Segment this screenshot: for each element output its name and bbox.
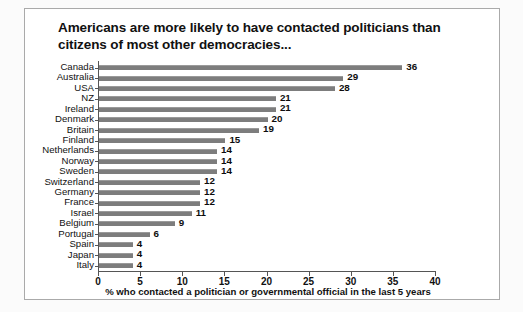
y-axis-tick (95, 182, 98, 183)
bar-italy (99, 263, 133, 268)
bar-australia (99, 76, 343, 81)
bar-row: USA28 (98, 84, 435, 94)
bar-value-label: 11 (196, 208, 206, 218)
bar-row: Finland15 (98, 136, 435, 146)
y-axis-tick (95, 151, 98, 152)
bar-portugal (99, 232, 150, 237)
bar-row: Spain4 (98, 240, 435, 250)
y-axis-tick (95, 99, 98, 100)
bar-france (99, 201, 200, 206)
y-axis-tick (95, 120, 98, 121)
bar-value-label: 14 (221, 166, 232, 176)
y-axis-tick (95, 245, 98, 246)
bar-value-label: 19 (263, 124, 274, 134)
bar-japan (99, 253, 133, 258)
bar-row: Italy4 (98, 261, 435, 271)
bar-row: Ireland21 (98, 105, 435, 115)
y-axis-tick (95, 234, 98, 235)
bar-row: Israel11 (98, 209, 435, 219)
bar-row: Switzerland12 (98, 178, 435, 188)
bar-canada (99, 65, 402, 70)
bar-row: Portugal6 (98, 230, 435, 240)
bar-row: Britain19 (98, 126, 435, 136)
plot-area: Canada36Australia29USA28NZ21Ireland21Den… (98, 61, 435, 271)
y-axis-tick (95, 141, 98, 142)
y-axis-tick (95, 161, 98, 162)
y-axis-tick (95, 213, 98, 214)
bar-row: Sweden14 (98, 167, 435, 177)
bar-row: France12 (98, 198, 435, 208)
bar-israel (99, 211, 192, 216)
bar-netherlands (99, 149, 217, 154)
y-axis-tick (95, 266, 98, 267)
bar-row: NZ21 (98, 94, 435, 104)
y-axis-tick (95, 224, 98, 225)
bar-denmark (99, 117, 268, 122)
bar-switzerland (99, 180, 200, 185)
y-axis-tick (95, 88, 98, 89)
bar-row: Belgium9 (98, 219, 435, 229)
bar-spain (99, 242, 133, 247)
bar-belgium (99, 221, 175, 226)
bar-value-label: 4 (137, 260, 142, 270)
bar-ireland (99, 107, 276, 112)
category-label-italy: Italy (76, 260, 94, 270)
bar-nz (99, 96, 276, 101)
y-axis-tick (95, 78, 98, 79)
chart-title-line-1: Americans are more likely to have contac… (58, 19, 478, 36)
y-axis-tick (95, 203, 98, 204)
y-axis-tick (95, 255, 98, 256)
y-axis-tick (95, 109, 98, 110)
bar-value-label: 6 (154, 229, 159, 239)
bar-sweden (99, 169, 217, 174)
bar-usa (99, 86, 335, 91)
bar-row: Norway14 (98, 157, 435, 167)
x-axis-caption: % who contacted a politician or governme… (58, 286, 478, 297)
y-axis-tick (95, 172, 98, 173)
category-label-denmark: Denmark (55, 114, 94, 124)
y-axis-tick (95, 130, 98, 131)
bar-britain (99, 128, 259, 133)
bar-row: Netherlands14 (98, 146, 435, 156)
bar-row: Germany12 (98, 188, 435, 198)
bar-value-label: 28 (339, 83, 350, 93)
bar-row: Canada36 (98, 63, 435, 73)
chart-title: Americans are more likely to have contac… (58, 19, 478, 53)
bar-value-label: 9 (179, 218, 184, 228)
chart-title-line-2: citizens of most other democracies... (58, 36, 478, 53)
chart-panel: Americans are more likely to have contac… (24, 8, 500, 300)
y-axis-tick (95, 68, 98, 69)
category-label-spain: Spain (69, 239, 94, 249)
bar-row: Australia29 (98, 73, 435, 83)
bar-finland (99, 138, 225, 143)
y-axis-tick (95, 193, 98, 194)
bar-value-label: 36 (406, 62, 417, 72)
bar-germany (99, 190, 200, 195)
bar-row: Japan4 (98, 251, 435, 261)
bar-norway (99, 159, 217, 164)
